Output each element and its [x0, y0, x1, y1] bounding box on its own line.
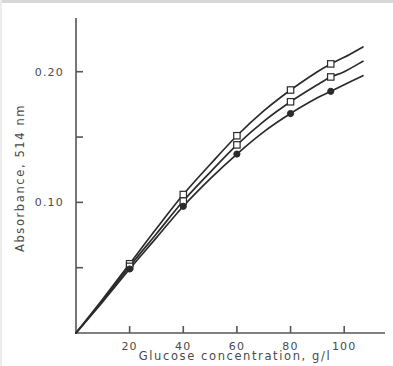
scan-edge-top [0, 0, 393, 3]
data-point-marker [180, 191, 186, 197]
data-point-marker [234, 142, 240, 148]
x-axis-title: Glucose concentration, g/l [139, 349, 331, 363]
plot-axes [76, 18, 385, 333]
scan-edge-left [0, 0, 2, 366]
series-line-series-2-middle [76, 61, 363, 333]
x-tick-label: 20 [121, 340, 137, 353]
figure-container: 0.200.10 20406080100 Glucose concentrati… [0, 0, 393, 366]
y-axis-ticks [76, 72, 83, 268]
absorbance-vs-glucose-chart: 0.200.10 20406080100 Glucose concentrati… [0, 0, 393, 366]
y-axis-tick-labels: 0.200.10 [35, 66, 64, 210]
x-tick-label: 100 [332, 340, 357, 353]
series-line-series-3-lower [76, 76, 363, 333]
data-point-marker [328, 74, 334, 80]
data-point-marker [287, 110, 293, 116]
data-point-marker [180, 203, 186, 209]
data-point-marker [328, 88, 334, 94]
series-line-series-1-upper [76, 47, 363, 333]
data-point-marker [234, 151, 240, 157]
data-point-marker [287, 87, 293, 93]
x-axis-ticks [130, 326, 345, 333]
y-axis-title: Absorbance, 514 nm [13, 104, 27, 252]
series-curves [76, 47, 363, 333]
y-tick-label: 0.10 [35, 196, 64, 209]
y-tick-label: 0.20 [35, 66, 64, 79]
data-point-marker [287, 99, 293, 105]
data-point-marker [127, 266, 133, 272]
data-point-marker [234, 133, 240, 139]
series-markers [126, 61, 334, 272]
data-point-marker [328, 61, 334, 67]
